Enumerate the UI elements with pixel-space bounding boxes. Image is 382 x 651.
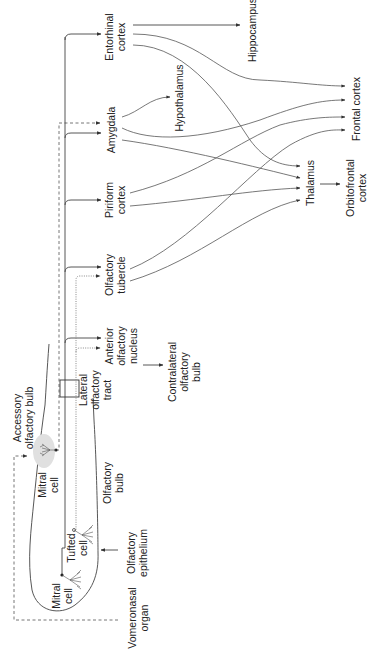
svg-text:bulb: bulb bbox=[113, 473, 125, 493]
label-thalamus: Thalamus bbox=[304, 160, 316, 206]
svg-text:olfactory: olfactory bbox=[89, 369, 101, 409]
label-contralateral-olfactory-bulb: Contralateral olfactory bulb bbox=[166, 342, 202, 402]
label-hypothalamus: Hypothalamus bbox=[173, 64, 185, 131]
svg-text:Vomeronasal: Vomeronasal bbox=[126, 587, 138, 648]
svg-text:Olfactory: Olfactory bbox=[101, 461, 113, 504]
svg-text:cortex: cortex bbox=[115, 22, 127, 51]
label-olfactory-bulb: Olfactory bulb bbox=[101, 461, 125, 504]
entorhinal-to-frontal bbox=[133, 34, 345, 86]
lot-to-piriform bbox=[65, 200, 101, 205]
label-anterior-olfactory-nucleus: Anterior olfactory nucleus bbox=[103, 325, 139, 365]
svg-text:cortex: cortex bbox=[115, 185, 127, 214]
bulb-upper-edge bbox=[45, 344, 49, 405]
svg-text:Olfactory: Olfactory bbox=[103, 253, 115, 296]
svg-text:Frontal cortex: Frontal cortex bbox=[350, 76, 362, 141]
label-piriform-cortex: Piriform cortex bbox=[103, 182, 127, 218]
svg-text:Mitral: Mitral bbox=[36, 472, 48, 498]
piriform-to-thalamus bbox=[130, 188, 300, 206]
accessory-bulb-shading bbox=[33, 434, 55, 468]
olfactory-pathway-diagram: Entorhinal cortex Hippocampus Hypothalam… bbox=[0, 0, 382, 651]
svg-text:cell: cell bbox=[77, 540, 89, 556]
label-mitral-cell-bottom: Mitral cell bbox=[50, 583, 74, 609]
svg-text:nucleus: nucleus bbox=[127, 328, 139, 364]
lot-to-entorhinal bbox=[65, 34, 101, 40]
svg-text:epithelium: epithelium bbox=[137, 529, 149, 577]
label-hippocampus: Hippocampus bbox=[246, 0, 258, 62]
svg-text:Accessory: Accessory bbox=[11, 393, 23, 442]
label-lateral-olfactory-tract: Lateral olfactory tract bbox=[77, 369, 113, 409]
olfactory-bulb-outline bbox=[30, 398, 98, 611]
svg-text:Orbitofrontal: Orbitofrontal bbox=[344, 159, 356, 217]
svg-text:Hypothalamus: Hypothalamus bbox=[173, 64, 185, 131]
svg-text:Lateral: Lateral bbox=[77, 374, 89, 406]
svg-text:Amygdala: Amygdala bbox=[105, 107, 117, 154]
label-vomeronasal-organ: Vomeronasal organ bbox=[126, 587, 150, 648]
label-olfactory-tubercle: Olfactory tubercle bbox=[103, 253, 127, 296]
svg-text:Olfactory: Olfactory bbox=[125, 531, 137, 574]
lot-to-tubercle bbox=[65, 267, 101, 272]
svg-text:olfactory bulb: olfactory bulb bbox=[23, 387, 35, 450]
label-entorhinal-cortex: Entorhinal cortex bbox=[103, 13, 127, 60]
lot-to-aon bbox=[65, 338, 101, 343]
svg-text:olfactory: olfactory bbox=[178, 351, 190, 391]
svg-text:bulb: bulb bbox=[190, 362, 202, 382]
label-orbitofrontal-cortex: Orbitofrontal cortex bbox=[344, 159, 368, 217]
tubercle-to-thalamus bbox=[130, 200, 300, 281]
amygdala-to-thalamus bbox=[122, 140, 300, 178]
svg-text:cell: cell bbox=[62, 588, 74, 604]
svg-text:organ: organ bbox=[138, 604, 150, 631]
svg-text:tubercle: tubercle bbox=[115, 256, 127, 294]
lot-to-amygdala bbox=[65, 133, 101, 138]
svg-text:Entorhinal: Entorhinal bbox=[103, 13, 115, 60]
svg-text:Thalamus: Thalamus bbox=[304, 160, 316, 206]
svg-text:cell: cell bbox=[48, 477, 60, 493]
label-olfactory-epithelium: Olfactory epithelium bbox=[125, 529, 149, 577]
label-frontal-cortex: Frontal cortex bbox=[350, 76, 362, 141]
svg-text:tract: tract bbox=[101, 380, 113, 401]
svg-text:Mitral: Mitral bbox=[50, 583, 62, 609]
mitral-bottom-dendrites bbox=[62, 570, 81, 589]
svg-text:cortex: cortex bbox=[356, 173, 368, 202]
svg-text:Tufted: Tufted bbox=[65, 533, 77, 563]
svg-text:olfactory: olfactory bbox=[115, 325, 127, 365]
label-accessory-olfactory-bulb: Accessory olfactory bulb bbox=[11, 387, 35, 450]
svg-text:Hippocampus: Hippocampus bbox=[246, 0, 258, 62]
label-amygdala: Amygdala bbox=[105, 107, 117, 154]
svg-text:Piriform: Piriform bbox=[103, 182, 115, 218]
lateral-olfactory-tract-line bbox=[62, 37, 65, 575]
svg-text:Anterior: Anterior bbox=[103, 327, 115, 364]
tufted-to-aon-dotted bbox=[76, 348, 100, 352]
label-mitral-cell-top: Mitral cell bbox=[36, 472, 60, 498]
svg-text:Contralateral: Contralateral bbox=[166, 342, 178, 402]
amygdala-to-hypothalamus bbox=[122, 97, 170, 117]
